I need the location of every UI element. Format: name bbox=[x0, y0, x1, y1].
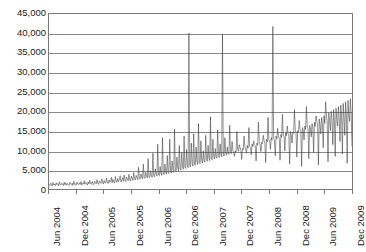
x-axis-tick bbox=[241, 190, 242, 194]
x-axis-tick bbox=[297, 190, 298, 194]
x-axis-tick-label: Dec 2006 bbox=[190, 205, 200, 246]
x-axis-tick bbox=[159, 190, 160, 194]
y-axis-tick-label: 20,000 bbox=[2, 106, 46, 116]
y-axis-tick-label: 25,000 bbox=[2, 87, 46, 97]
y-axis-tick-label: 40,000 bbox=[2, 28, 46, 38]
x-axis-tick-label: Jun 2004 bbox=[52, 207, 62, 246]
y-axis: 45,00040,00035,00030,00025,00020,00015,0… bbox=[0, 0, 46, 252]
x-axis-ticks bbox=[48, 190, 353, 194]
x-axis-tick-label: Dec 2004 bbox=[80, 205, 90, 246]
x-axis-tick bbox=[131, 190, 132, 194]
x-axis-tick-label: Jun 2008 bbox=[273, 207, 283, 246]
x-axis-tick bbox=[186, 190, 187, 194]
x-axis-tick bbox=[352, 190, 353, 194]
x-axis-tick bbox=[103, 190, 104, 194]
x-axis-tick bbox=[76, 190, 77, 194]
y-axis-tick-label: 0 bbox=[2, 185, 46, 195]
x-axis-tick-label: Jun 2005 bbox=[107, 207, 117, 246]
x-axis-tick-label: Jun 2007 bbox=[218, 207, 228, 246]
y-axis-tick-label: 10,000 bbox=[2, 146, 46, 156]
plot-area bbox=[48, 13, 353, 190]
x-axis-tick bbox=[48, 190, 49, 194]
x-axis-tick-label: Dec 2005 bbox=[135, 205, 145, 246]
x-axis-tick bbox=[214, 190, 215, 194]
x-axis-tick-label: Dec 2009 bbox=[356, 205, 366, 246]
y-axis-tick-label: 15,000 bbox=[2, 126, 46, 136]
data-series-line bbox=[49, 14, 352, 189]
x-axis-tick bbox=[324, 190, 325, 194]
x-axis-tick-label: Dec 2007 bbox=[245, 205, 255, 246]
y-axis-tick-label: 35,000 bbox=[2, 47, 46, 57]
y-axis-tick-label: 30,000 bbox=[2, 67, 46, 77]
x-axis-tick-label: Dec 2008 bbox=[301, 205, 311, 246]
y-axis-tick-label: 5,000 bbox=[2, 165, 46, 175]
y-axis-tick-label: 45,000 bbox=[2, 8, 46, 18]
x-axis: Jun 2004Dec 2004Jun 2005Dec 2005Jun 2006… bbox=[48, 190, 353, 252]
x-axis-tick-label: Jun 2009 bbox=[328, 207, 338, 246]
x-axis-tick bbox=[269, 190, 270, 194]
x-axis-tick-label: Jun 2006 bbox=[163, 207, 173, 246]
